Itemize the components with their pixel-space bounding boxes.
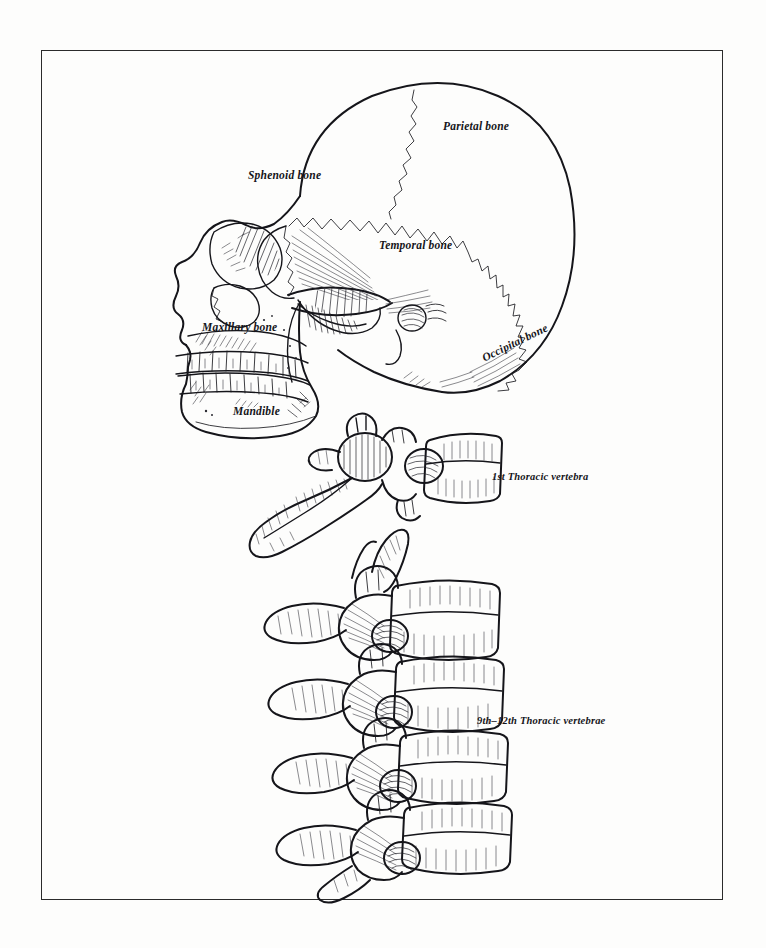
anatomical-illustration: .o { fill:none; stroke:#15151a; stroke-w… <box>0 0 766 948</box>
label-sphenoid-bone: Sphenoid bone <box>248 170 321 182</box>
label-thoracic-vertebrae-range: 9th–12th Thoracic vertebrae <box>477 716 605 727</box>
label-parietal-bone: Parietal bone <box>443 121 509 133</box>
label-temporal-bone: Temporal bone <box>379 240 452 252</box>
anatomical-plate: .o { fill:none; stroke:#15151a; stroke-w… <box>0 0 766 948</box>
skull-figure <box>173 83 574 438</box>
label-first-thoracic-vertebra: 1st Thoracic vertebra <box>492 472 588 483</box>
label-maxillary-bone: Maxillary bone <box>202 322 277 334</box>
label-mandible: Mandible <box>233 406 280 418</box>
thoracic-vertebrae-stack-figure <box>264 530 512 903</box>
